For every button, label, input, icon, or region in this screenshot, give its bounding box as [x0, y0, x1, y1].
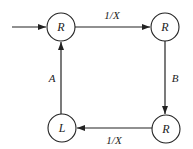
node-label: R	[160, 20, 169, 34]
node-label: R	[56, 20, 65, 34]
state-diagram: R R R L 1/X B 1/X A	[0, 0, 193, 149]
edge-label-right: B	[172, 72, 179, 84]
node-label: L	[58, 121, 66, 135]
edge-label-bottom: 1/X	[106, 134, 123, 146]
node-l-bottom-left: L	[48, 114, 76, 142]
diagram-svg: R R R L 1/X B 1/X A	[0, 0, 193, 149]
node-r-top-right: R	[151, 13, 179, 41]
node-label: R	[161, 122, 170, 136]
edge-label-left: A	[48, 72, 56, 84]
node-r-bottom-right: R	[152, 115, 180, 143]
edge-label-top: 1/X	[104, 9, 121, 21]
node-r-top-left: R	[47, 13, 75, 41]
